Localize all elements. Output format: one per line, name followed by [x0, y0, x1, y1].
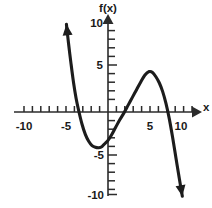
- x-tick-label-5: 5: [147, 120, 154, 132]
- x-tick-label-10: 10: [175, 120, 188, 132]
- y-tick-label-neg10: -10: [87, 189, 104, 201]
- y-axis-arrowhead: [103, 14, 114, 24]
- x-axis-arrowhead: [192, 107, 202, 118]
- y-axis-label: f(x): [99, 2, 117, 14]
- x-axis-label: x: [203, 101, 210, 113]
- function-curve: [66, 24, 182, 196]
- y-tick-label-10: 10: [90, 17, 103, 29]
- y-tick-label-neg5: -5: [94, 149, 105, 161]
- x-tick-label-neg10: -10: [16, 120, 33, 132]
- graph-figure: -10 -5 5 10 x: [0, 0, 212, 208]
- x-axis-group: -10 -5 5 10 x: [14, 101, 210, 132]
- x-tick-label-neg5: -5: [61, 120, 72, 132]
- coordinate-plane-chart: -10 -5 5 10 x: [0, 0, 212, 208]
- y-axis-group: 10 5 -5 -10 f(x): [87, 2, 117, 201]
- function-curve-group: [63, 24, 186, 196]
- y-tick-label-5: 5: [97, 59, 104, 71]
